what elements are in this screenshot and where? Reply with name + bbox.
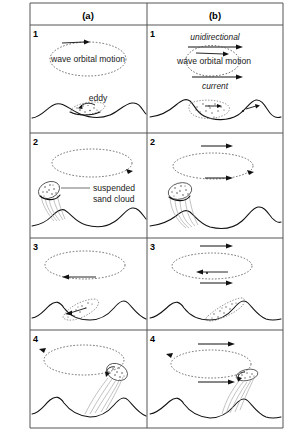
- orbit-ellipse-a2: [52, 149, 132, 177]
- panel-b1: unidirectional wave orbital motion curre…: [150, 32, 281, 120]
- panel-number-a3: 3: [33, 242, 38, 252]
- bed-arrowhead-b1: [255, 104, 260, 109]
- eddy-swirl-arrowhead-a1: [78, 105, 83, 110]
- bed-profile-b4: [150, 398, 281, 418]
- column-header-b: (b): [209, 10, 221, 21]
- orbit-ellipse-a4: [44, 345, 124, 375]
- panel-number-a1: 1: [33, 29, 38, 39]
- bed-profile-a3: [32, 301, 146, 320]
- label-wave-orbital-motion-b1: wave orbital motion: [176, 56, 251, 66]
- panel-a2: suspended sand cloud: [32, 149, 146, 227]
- orbit-arrowhead-a3: [62, 275, 69, 280]
- label-suspended-a2: suspended: [93, 183, 135, 193]
- current-arrowhead-mid-b2: [226, 175, 233, 180]
- sand-grains-b4: [241, 372, 254, 378]
- label-current-b1: current: [202, 81, 229, 91]
- sand-grains-a2: [42, 184, 56, 196]
- orbit-ellipse-a3: [45, 251, 125, 279]
- panel-a3: [32, 251, 146, 320]
- cloud-arrowhead-a3: [65, 311, 72, 316]
- orbit-arrowhead-b3: [196, 270, 203, 275]
- eddy-swirl-a1: [80, 103, 95, 107]
- diagram-svg: (a) (b) 1 1 2 2 3 3 4 4 wave orbital mot…: [0, 0, 297, 443]
- orbit-arrowhead-a2: [126, 169, 133, 174]
- cloud-swirl-arrowhead-b4: [237, 377, 242, 383]
- sand-cloud-b1: [189, 100, 230, 118]
- orbit-arrow-b1: [196, 53, 224, 54]
- panel-a4: [32, 345, 146, 417]
- sand-grains-b2: [171, 185, 188, 196]
- bed-profile-b1: [150, 100, 281, 120]
- current-arrowhead-bottom-b1: [236, 74, 243, 79]
- current-arrowhead-bottom-b4: [228, 379, 235, 384]
- orbit-arrowhead-b2: [247, 170, 254, 175]
- current-arrowhead-top-b3: [226, 243, 233, 248]
- plume-streaks-a4: [85, 377, 123, 414]
- orbit-arrowhead-a4: [39, 348, 46, 353]
- label-unidirectional-b1: unidirectional: [190, 32, 240, 42]
- bed-profile-a1: [32, 103, 146, 118]
- figure-grid: [30, 3, 283, 428]
- panel-b3: [150, 243, 281, 321]
- label-wave-orbital-motion-a1: wave orbital motion: [50, 54, 125, 64]
- eddy-grains-a1: [76, 105, 97, 113]
- panel-number-b4: 4: [150, 334, 155, 344]
- current-arrowhead-top-b2: [226, 143, 233, 148]
- bed-profile-a2: [32, 208, 146, 227]
- current-arrowhead-top-b1: [236, 44, 243, 49]
- bed-profile-b2: [150, 207, 281, 228]
- panel-number-b3: 3: [150, 242, 155, 252]
- current-arrowhead-top-b4: [228, 341, 235, 346]
- orbit-ellipse-b3: [172, 253, 252, 279]
- label-sand-cloud-a2: sand cloud: [93, 194, 135, 204]
- label-eddy-a1: eddy: [89, 93, 108, 103]
- orbit-ellipse-b2: [173, 153, 253, 179]
- figure-container: (a) (b) 1 1 2 2 3 3 4 4 wave orbital mot…: [0, 0, 297, 443]
- panel-number-a4: 4: [33, 334, 38, 344]
- plume-streaks-b4: [222, 378, 254, 414]
- panel-a1: wave orbital motion eddy: [32, 40, 146, 119]
- panel-number-a2: 2: [33, 137, 38, 147]
- orbit-arrowhead-a1: [84, 40, 90, 45]
- current-arrowhead-bottom-b3: [226, 280, 233, 285]
- orbit-arrowhead-b4: [166, 353, 173, 358]
- panel-number-b1: 1: [150, 29, 155, 39]
- sand-grains-a4: [109, 367, 124, 378]
- panel-number-b2: 2: [150, 137, 155, 147]
- panel-b2: [150, 143, 281, 228]
- column-header-a: (a): [82, 10, 94, 21]
- panel-b4: [150, 341, 281, 418]
- bed-profile-a4: [32, 397, 146, 417]
- cloud-arrow-a3: [70, 308, 86, 313]
- bed-profile-b3: [150, 301, 281, 320]
- orbit-arrow-a1: [62, 42, 84, 43]
